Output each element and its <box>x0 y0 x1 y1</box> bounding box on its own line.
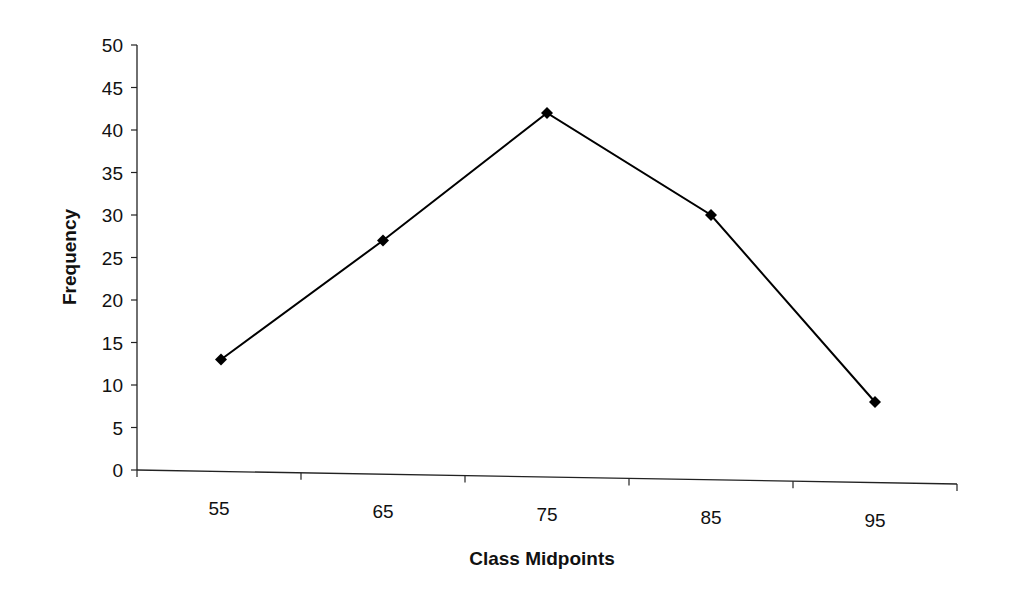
series-line <box>221 113 875 402</box>
y-tick-label: 40 <box>102 120 123 141</box>
y-tick-label: 30 <box>102 205 123 226</box>
y-tick-label: 10 <box>102 375 123 396</box>
x-tick-label: 55 <box>208 498 229 519</box>
y-tick-label: 45 <box>102 78 123 99</box>
x-tick-label: 95 <box>864 510 885 531</box>
frequency-polygon-chart: 05101520253035404550 5565758595 Frequenc… <box>0 0 1009 611</box>
y-tick-label: 25 <box>102 248 123 269</box>
y-tick-label: 15 <box>102 333 123 354</box>
x-axis-title: Class Midpoints <box>469 548 615 569</box>
y-axis: 05101520253035404550 <box>102 35 137 481</box>
y-tick-label: 5 <box>112 418 123 439</box>
x-tick-label: 85 <box>700 507 721 528</box>
y-tick-label: 20 <box>102 290 123 311</box>
y-tick-label: 50 <box>102 35 123 56</box>
data-series <box>215 107 881 408</box>
x-axis: 5565758595 <box>137 470 957 531</box>
y-tick-label: 0 <box>112 460 123 481</box>
y-tick-label: 35 <box>102 163 123 184</box>
x-tick-label: 75 <box>536 504 557 525</box>
x-tick-label: 65 <box>372 501 393 522</box>
y-axis-title: Frequency <box>59 209 80 306</box>
